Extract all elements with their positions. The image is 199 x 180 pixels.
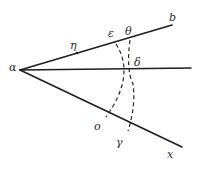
label-epsilon: ε bbox=[108, 27, 114, 40]
ray-alpha-horizontal bbox=[20, 68, 191, 70]
ray-alpha-b bbox=[20, 25, 172, 70]
arc-theta-gamma bbox=[128, 40, 134, 131]
arc-epsilon-omicron bbox=[106, 44, 124, 117]
label-omicron: o bbox=[94, 120, 101, 133]
label-gamma: γ bbox=[116, 136, 123, 149]
label-alpha: α bbox=[9, 61, 17, 74]
label-eta: η bbox=[70, 39, 77, 52]
angle-diagram: α b x η ε θ δ o γ bbox=[0, 0, 199, 180]
label-x: x bbox=[167, 148, 174, 161]
eta-point bbox=[76, 52, 79, 55]
label-b: b bbox=[169, 11, 176, 24]
label-theta: θ bbox=[125, 25, 132, 38]
ray-alpha-x bbox=[20, 70, 182, 147]
label-delta: δ bbox=[134, 56, 141, 69]
